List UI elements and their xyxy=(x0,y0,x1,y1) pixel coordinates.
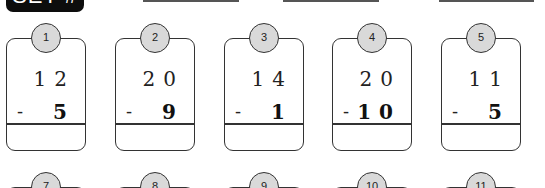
answer-line xyxy=(7,123,85,125)
problem-number-badge: 4 xyxy=(357,23,387,53)
problem-card-2: 2 20 - 9 xyxy=(115,38,195,151)
problem-card-10: 10 xyxy=(332,187,412,188)
problem-number-badge: 11 xyxy=(466,172,496,188)
subtrahend: 1 xyxy=(271,100,293,124)
answer-line xyxy=(225,123,303,125)
problem-number-badge: 3 xyxy=(249,23,279,53)
subtrahend: 5 xyxy=(488,100,510,124)
problem-card-4: 4 20 - 10 xyxy=(332,38,412,151)
problem-card-3: 3 14 - 1 xyxy=(224,38,304,151)
minus-sign: - xyxy=(235,101,241,122)
problem-number-badge: 2 xyxy=(140,23,170,53)
problem-number-badge: 8 xyxy=(140,172,170,188)
date-line xyxy=(283,0,379,2)
set-label: SET # xyxy=(6,0,84,12)
problem-card-7: 7 xyxy=(6,187,86,188)
problem-number-badge: 10 xyxy=(357,172,387,188)
problem-card-11: 11 xyxy=(441,187,521,188)
subtrahend: 9 xyxy=(162,100,184,124)
answer-line xyxy=(116,123,194,125)
subtrahend: 10 xyxy=(357,100,401,124)
problem-card-5: 5 11 - 5 xyxy=(441,38,521,151)
problem-number-badge: 5 xyxy=(466,23,496,53)
problem-card-8: 8 xyxy=(115,187,195,188)
problem-card-1: 1 12 - 5 xyxy=(6,38,86,151)
problem-number-badge: 7 xyxy=(31,172,61,188)
minuend: 20 xyxy=(143,67,184,91)
minus-sign: - xyxy=(17,101,23,122)
minus-sign: - xyxy=(343,101,349,122)
score-line xyxy=(439,0,534,2)
name-line xyxy=(143,0,239,2)
minuend: 12 xyxy=(34,67,75,91)
subtrahend: 5 xyxy=(53,100,75,124)
minuend: 14 xyxy=(252,67,293,91)
problem-number-badge: 9 xyxy=(249,172,279,188)
problem-number-badge: 1 xyxy=(31,23,61,53)
minus-sign: - xyxy=(126,101,132,122)
minuend: 20 xyxy=(360,67,401,91)
minuend: 11 xyxy=(469,67,510,91)
problem-card-9: 9 xyxy=(224,187,304,188)
minus-sign: - xyxy=(452,101,458,122)
answer-line xyxy=(333,123,411,125)
answer-line xyxy=(442,123,520,125)
